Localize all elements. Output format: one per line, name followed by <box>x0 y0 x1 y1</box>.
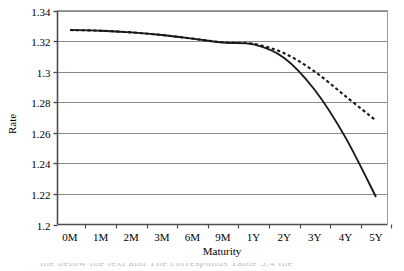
y-tick-label: 1.34 <box>31 6 51 18</box>
x-tick-label: 3Y <box>308 231 322 243</box>
x-tick-label: 6M <box>185 231 201 243</box>
x-tick-label: 9M <box>215 231 231 243</box>
rate-vs-maturity-line-chart: 1.21.221.241.261.281.31.321.34 0M1M2M3M6… <box>0 0 404 271</box>
y-tick-label: 1.2 <box>37 220 51 232</box>
x-tick-label: 2M <box>124 231 140 243</box>
page-cutoff-text-line: the below the text and The corresponds T… <box>40 263 390 268</box>
y-tick-label: 1.22 <box>31 189 50 201</box>
x-tick-label: 0M <box>62 231 78 243</box>
x-tick-label: 2Y <box>277 231 291 243</box>
y-tick-label: 1.28 <box>31 97 51 109</box>
x-tick-label: 3M <box>154 231 170 243</box>
y-tick-label: 1.3 <box>37 67 51 79</box>
x-tick-label: 5Y <box>369 231 383 243</box>
x-tick-label: 4Y <box>339 231 353 243</box>
y-tick-label: 1.32 <box>31 36 50 48</box>
y-tick-label: 1.26 <box>31 128 51 140</box>
y-axis-title: Rate <box>6 114 18 134</box>
x-tick-label: 1M <box>93 231 109 243</box>
page-cutoff-text: the below the text and The corresponds T… <box>40 263 390 269</box>
chart-figure: 1.21.221.241.261.281.31.321.34 0M1M2M3M6… <box>0 0 404 271</box>
y-tick-label: 1.24 <box>31 158 51 170</box>
x-axis-title: Maturity <box>203 245 242 257</box>
x-tick-label: 1Y <box>247 231 261 243</box>
